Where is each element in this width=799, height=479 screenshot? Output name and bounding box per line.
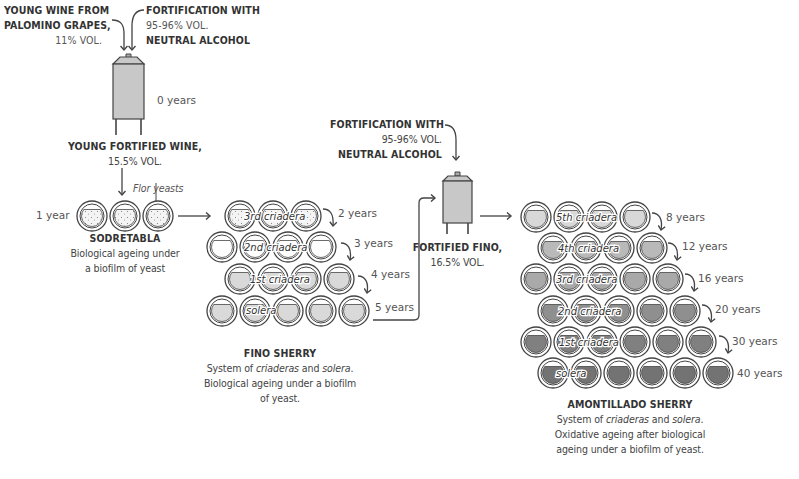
amontillado-age-2nd: 20 years — [715, 303, 761, 315]
young-wine-line2: PALOMINO GRAPES, — [4, 18, 102, 33]
wine-inflow-arrow — [112, 20, 124, 50]
young-wine-tank-icon — [113, 54, 144, 135]
sodretabla-desc2: a biofilm of yeast — [50, 261, 200, 276]
svg-text:1st criadera: 1st criadera — [250, 274, 310, 285]
sodretabla-caption: SODRETABLA Biological ageing under a bio… — [50, 231, 200, 276]
amontillado-caption: AMONTILLADO SHERRY System of criaderas a… — [535, 397, 725, 457]
amontillado-age-3rd: 16 years — [698, 272, 744, 284]
amontillado-title: AMONTILLADO SHERRY — [535, 397, 725, 412]
fino-title: FINO SHERRY — [200, 346, 360, 361]
alcohol-inflow-arrow-2 — [445, 125, 456, 160]
amontillado-desc2: Oxidative ageing after biological — [535, 427, 725, 442]
svg-text:5th criadera: 5th criadera — [556, 212, 617, 223]
sodretabla-title: SODRETABLA — [50, 231, 200, 246]
svg-text:2nd criadera: 2nd criadera — [558, 306, 621, 317]
amontillado-age-1st: 30 years — [732, 335, 778, 347]
barrel-icon — [653, 264, 683, 294]
young-wine-vol: 11% VOL. — [4, 33, 102, 48]
young-wine-source-label: YOUNG WINE FROM PALOMINO GRAPES, 11% VOL… — [4, 3, 102, 48]
barrel-icon — [686, 327, 716, 357]
barrel-icon — [653, 327, 683, 357]
svg-text:solera: solera — [246, 305, 277, 316]
fino-age-solera: 5 years — [375, 301, 414, 313]
fortification2-line1: FORTIFICATION WITH — [330, 117, 442, 132]
svg-text:3rd criadera: 3rd criadera — [556, 274, 617, 285]
fino-desc2: Biological ageing under a biofilm — [200, 376, 360, 391]
barrel-icon — [521, 327, 551, 357]
svg-text:3rd criadera: 3rd criadera — [244, 211, 305, 222]
amontillado-desc1: System of criaderas and solera. — [535, 412, 725, 427]
barrel-icon — [339, 296, 369, 326]
tank2-vol: 16.5% VOL. — [400, 255, 515, 270]
barrel-icon — [77, 201, 107, 231]
barrel-icon — [521, 202, 551, 232]
barrel-icon — [670, 296, 700, 326]
tank1-title: YOUNG FORTIFIED WINE, — [60, 139, 210, 154]
barrel-icon — [207, 296, 237, 326]
barrel-icon — [273, 296, 303, 326]
sodretabla-barrels — [77, 201, 173, 231]
amontillado-barrels — [521, 202, 733, 388]
fino-desc1: System of criaderas and solera. — [200, 361, 360, 376]
fino-age-2nd: 3 years — [354, 237, 393, 249]
fortification2-line3: NEUTRAL ALCOHOL — [330, 147, 442, 162]
svg-text:1st criadera: 1st criadera — [559, 337, 619, 348]
barrel-icon — [110, 201, 140, 231]
amontillado-age-solera: 40 years — [737, 367, 783, 379]
fortified-fino-tank-icon — [443, 172, 472, 234]
fortification-line3: NEUTRAL ALCOHOL — [146, 33, 260, 48]
barrel-icon — [521, 264, 551, 294]
fortification-vol: 95-96% VOL. — [146, 18, 260, 33]
barrel-icon — [703, 358, 733, 388]
tank2-title: FORTIFIED FINO, — [400, 240, 515, 255]
barrel-icon — [670, 358, 700, 388]
tank1-age: 0 years — [157, 94, 196, 106]
svg-text:4th criadera: 4th criadera — [558, 243, 619, 254]
flor-yeasts-label: Flor yeasts — [133, 181, 183, 196]
barrel-icon — [143, 201, 173, 231]
barrel-icon — [207, 232, 237, 262]
barrel-icon — [620, 264, 650, 294]
barrel-icon — [620, 327, 650, 357]
tank1-vol: 15.5% VOL. — [60, 154, 210, 169]
amontillado-age-5th: 8 years — [666, 211, 705, 223]
barrel-icon — [637, 358, 667, 388]
alcohol-inflow-arrow — [132, 10, 144, 50]
sodretabla-age: 1 year — [36, 209, 69, 221]
amontillado-desc3: ageing under a biofilm of yeast. — [535, 442, 725, 457]
fino-age-3rd: 2 years — [338, 207, 377, 219]
fortification-source-label: FORTIFICATION WITH 95-96% VOL. NEUTRAL A… — [146, 3, 260, 48]
barrel-icon — [306, 232, 336, 262]
barrel-icon — [637, 233, 667, 263]
barrel-icon — [306, 296, 336, 326]
fortification-line1: FORTIFICATION WITH — [146, 3, 260, 18]
fortified-fino-label: FORTIFIED FINO, 16.5% VOL. — [400, 240, 515, 270]
young-fortified-wine-label: YOUNG FORTIFIED WINE, 15.5% VOL. — [60, 139, 210, 169]
svg-text:2nd criadera: 2nd criadera — [244, 242, 307, 253]
fortification2-vol: 95-96% VOL. — [330, 132, 442, 147]
amontillado-age-4th: 12 years — [682, 240, 728, 252]
svg-text:solera: solera — [556, 368, 587, 379]
barrel-icon — [637, 296, 667, 326]
barrel-icon — [604, 358, 634, 388]
sodretabla-desc1: Biological ageing under — [50, 246, 200, 261]
barrel-icon — [620, 202, 650, 232]
fino-caption: FINO SHERRY System of criaderas and sole… — [200, 346, 360, 406]
barrel-icon — [324, 264, 354, 294]
fortification2-label: FORTIFICATION WITH 95-96% VOL. NEUTRAL A… — [330, 117, 442, 162]
young-wine-line1: YOUNG WINE FROM — [4, 3, 102, 18]
fino-desc3: of yeast. — [200, 391, 360, 406]
